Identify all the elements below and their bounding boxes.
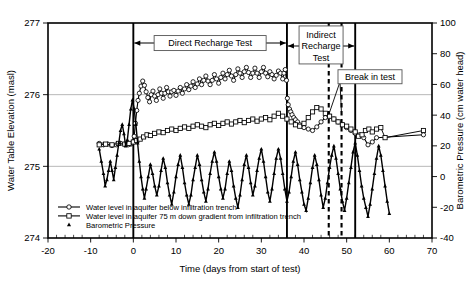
- marker-circle: [161, 96, 165, 100]
- marker-circle: [212, 73, 216, 77]
- legend-marker-circle-icon: [67, 205, 71, 209]
- marker-square: [246, 118, 250, 122]
- ytick-right-label-100: 100: [440, 17, 456, 28]
- marker-circle: [259, 70, 263, 74]
- marker-circle: [366, 143, 370, 147]
- marker-circle: [189, 84, 193, 88]
- marker-square: [191, 124, 195, 128]
- marker-square: [97, 143, 101, 147]
- annotation-label-line-3: Test: [313, 53, 330, 63]
- marker-square: [148, 133, 152, 137]
- marker-circle: [244, 65, 248, 69]
- marker-square: [336, 120, 340, 124]
- marker-square: [200, 124, 204, 128]
- marker-square: [217, 123, 221, 127]
- annotation-label: Break in test: [345, 72, 396, 82]
- ytick-right-label--40: -40: [440, 232, 454, 243]
- marker-circle: [136, 98, 140, 102]
- marker-circle: [178, 85, 182, 89]
- marker-square: [340, 123, 344, 127]
- marker-circle: [270, 73, 274, 77]
- marker-circle: [315, 125, 319, 129]
- marker-square: [153, 131, 157, 135]
- xtick-label-70: 70: [427, 245, 438, 256]
- marker-circle: [234, 73, 238, 77]
- marker-circle: [257, 75, 261, 79]
- marker-circle: [261, 65, 265, 69]
- marker-circle: [219, 75, 223, 79]
- marker-circle: [253, 66, 257, 70]
- marker-square: [268, 118, 272, 122]
- legend-item-label: Barometric Pressure: [86, 221, 155, 230]
- marker-circle: [151, 89, 155, 93]
- marker-square: [242, 121, 246, 125]
- marker-square: [104, 142, 108, 146]
- marker-square: [255, 119, 259, 123]
- marker-circle: [370, 140, 374, 144]
- marker-circle: [232, 78, 236, 82]
- marker-circle: [174, 93, 178, 97]
- xtick-label--10: -10: [84, 245, 98, 256]
- ytick-right-label-40: 40: [440, 110, 451, 121]
- ytick-left-label-277: 277: [24, 17, 40, 28]
- marker-circle: [283, 67, 287, 71]
- marker-circle: [284, 78, 288, 82]
- marker-square: [319, 107, 323, 111]
- marker-circle: [172, 88, 176, 92]
- marker-square: [281, 114, 285, 118]
- marker-circle: [223, 77, 227, 81]
- marker-circle: [141, 79, 145, 83]
- marker-square: [174, 128, 178, 132]
- marker-circle: [238, 71, 242, 75]
- marker-square: [328, 114, 332, 118]
- marker-square: [127, 141, 131, 145]
- x-axis-title: Time (days from start of test): [179, 263, 300, 274]
- ytick-right-label-60: 60: [440, 79, 451, 90]
- marker-square: [315, 105, 319, 109]
- ytick-right-label-80: 80: [440, 48, 451, 59]
- marker-square: [178, 126, 182, 130]
- marker-circle: [266, 75, 270, 79]
- marker-circle: [227, 68, 231, 72]
- marker-square: [264, 116, 268, 120]
- marker-circle: [221, 71, 225, 75]
- legend-item-label: Water level in aquifer below infiltratio…: [86, 203, 237, 212]
- marker-circle: [217, 81, 221, 85]
- marker-circle: [302, 126, 306, 130]
- marker-square: [229, 122, 233, 126]
- marker-square: [208, 123, 212, 127]
- ytick-right-label-0: 0: [440, 171, 445, 182]
- marker-circle: [182, 87, 186, 91]
- marker-circle: [374, 136, 378, 140]
- marker-circle: [137, 91, 141, 95]
- marker-square: [225, 120, 229, 124]
- marker-square: [332, 117, 336, 121]
- marker-square: [110, 143, 114, 147]
- marker-circle: [251, 71, 255, 75]
- xtick-label-30: 30: [256, 245, 267, 256]
- ytick-right-label--20: -20: [440, 202, 454, 213]
- y-axis-title-right: Barometric Pressure (cm water head): [454, 52, 465, 210]
- marker-square: [187, 126, 191, 130]
- marker-square: [289, 120, 293, 124]
- marker-circle: [249, 75, 253, 79]
- legend-item-water_level_75m_down_gradient: Water level in aquifer 75 m down gradien…: [58, 212, 301, 221]
- xtick-label-20: 20: [213, 245, 224, 256]
- marker-circle: [421, 133, 425, 137]
- marker-circle: [202, 78, 206, 82]
- legend-item-label: Water level in aquifer 75 m down gradien…: [86, 212, 301, 221]
- marker-square: [276, 111, 280, 115]
- ytick-right-label-20: 20: [440, 140, 451, 151]
- marker-circle: [144, 90, 148, 94]
- annotation-direct-recharge-test: Direct Recharge Test: [134, 36, 286, 51]
- marker-square: [272, 114, 276, 118]
- marker-square: [374, 127, 378, 131]
- marker-circle: [323, 116, 327, 120]
- marker-circle: [274, 73, 278, 77]
- marker-square: [421, 128, 425, 132]
- marker-circle: [236, 67, 240, 71]
- xtick-label-40: 40: [299, 245, 310, 256]
- marker-square: [293, 123, 297, 127]
- legend-marker-square-icon: [67, 214, 71, 218]
- marker-circle: [132, 134, 136, 138]
